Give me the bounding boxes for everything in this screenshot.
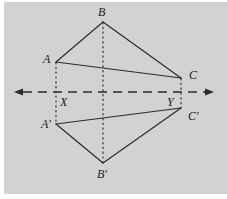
axis-arrow-left-icon [14,88,23,95]
vertex-label-X: X [60,96,67,108]
vertex-label-Cprime: C′ [188,110,199,122]
vertex-label-B: B [98,6,105,18]
edge-Ap-Bp [56,124,103,163]
vertex-label-C: C [189,69,197,81]
edge-A-B [56,22,103,62]
figure-canvas [0,0,227,199]
reflection-figure: BACXYA′C′B′ [0,0,227,199]
vertex-label-Y: Y [167,96,174,108]
vertex-label-Aprime: A′ [41,118,51,130]
axis-arrow-right-icon [205,88,214,95]
line-of-reflection-group [14,88,214,95]
vertex-label-Bprime: B′ [97,168,107,180]
vertex-label-A: A [43,53,50,65]
